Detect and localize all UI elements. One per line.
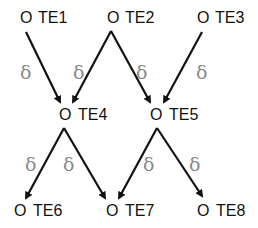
node-te4: O TE4 (59, 106, 107, 123)
node-label: TE7 (125, 202, 154, 219)
node-label: TE8 (216, 202, 245, 219)
node-label: TE2 (125, 9, 154, 26)
node-label: TE5 (169, 106, 198, 123)
node-te7: O TE7 (106, 202, 154, 219)
node-te3: O TE3 (197, 9, 244, 26)
node-label: TE3 (215, 9, 244, 26)
node-te8: O TE8 (197, 202, 245, 219)
node-marker: O (197, 202, 209, 219)
delta-label-te1-te4: δ (20, 61, 31, 83)
delta-label-te4-te7: δ (63, 153, 74, 175)
node-label: TE4 (78, 106, 107, 123)
node-marker: O (20, 9, 32, 26)
node-te1: O TE1 (20, 9, 67, 26)
node-label: TE1 (38, 9, 67, 26)
delta-label-te4-te6: δ (25, 153, 36, 175)
node-marker: O (107, 9, 119, 26)
delta-label-te2-te4: δ (73, 61, 84, 83)
node-marker: O (59, 106, 71, 123)
node-marker: O (197, 9, 209, 26)
node-marker: O (14, 202, 26, 219)
node-te6: O TE6 (14, 202, 62, 219)
node-te2: O TE2 (107, 9, 154, 26)
delta-label-te2-te5: δ (136, 61, 147, 83)
delta-label-te5-te7: δ (143, 153, 154, 175)
delta-label-te5-te8: δ (189, 153, 200, 175)
nodes: O TE1 O TE2 O TE3 O TE4 O TE5 O TE6 O TE… (14, 9, 245, 219)
node-marker: O (150, 106, 162, 123)
node-marker: O (106, 202, 118, 219)
node-label: TE6 (33, 202, 62, 219)
state-transition-diagram: δ δ δ δ δ δ δ δ O TE1 O TE2 O TE3 O TE4 … (0, 0, 258, 228)
node-te5: O TE5 (150, 106, 198, 123)
delta-label-te3-te5: δ (196, 61, 207, 83)
